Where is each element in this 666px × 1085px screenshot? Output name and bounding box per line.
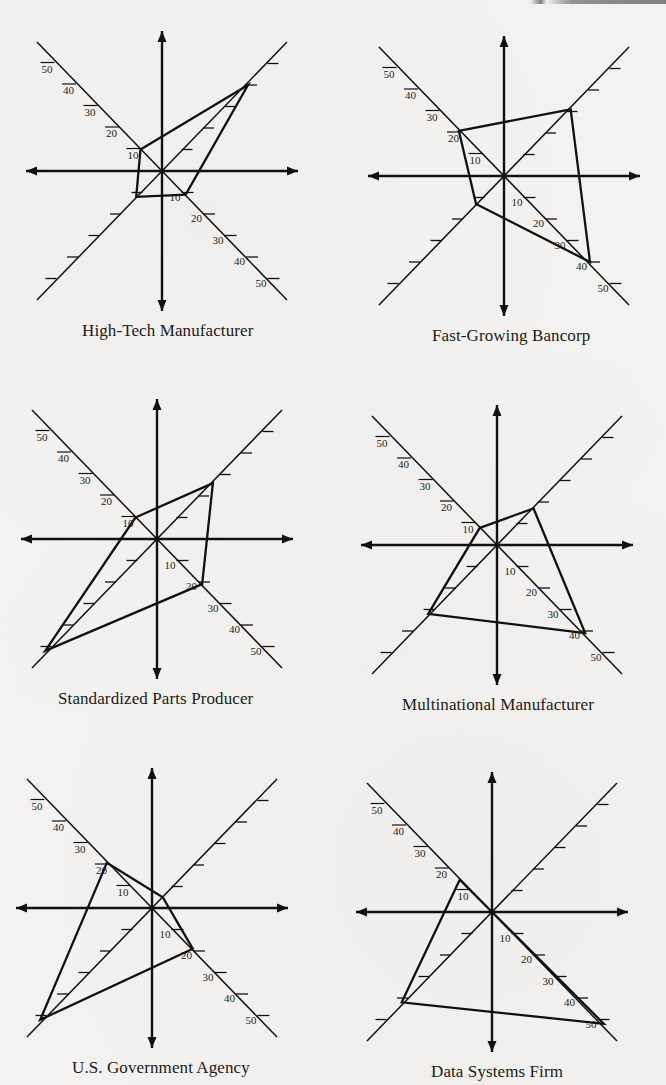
se-axis-label: 40	[564, 996, 576, 1008]
diagram-canvas: 1010202030304040505010102020303040405050…	[0, 0, 666, 1085]
se-axis-label: 20	[521, 953, 533, 965]
se-axis-label: 10	[505, 565, 517, 577]
se-axis-label: 50	[591, 651, 603, 663]
nw-axis-label: 10	[470, 154, 482, 166]
se-axis-label: 10	[165, 559, 177, 571]
profile-diagram-data-systems: 10102020303040405050	[356, 772, 628, 1052]
se-axis-label: 50	[246, 1014, 258, 1026]
caption-standardized: Standardized Parts Producer	[58, 689, 253, 709]
nw-axis-label: 50	[37, 431, 49, 443]
origin-point	[160, 169, 165, 174]
nw-axis-label: 50	[384, 68, 396, 80]
origin-point	[502, 174, 507, 179]
nw-axis-label: 20	[436, 868, 448, 880]
caption-multinational: Multinational Manufacturer	[402, 695, 594, 715]
profile-diagram-us-gov: 10102020303040405050	[16, 768, 288, 1048]
origin-point	[495, 543, 500, 548]
nw-axis-label: 10	[118, 886, 130, 898]
profile-diagram-bancorp: 10102020303040405050	[368, 36, 640, 316]
se-axis-label: 10	[500, 932, 512, 944]
nw-axis-label: 40	[398, 458, 410, 470]
se-axis-label: 40	[576, 260, 588, 272]
nw-axis-label: 50	[42, 63, 54, 75]
caption-high-tech: High-Tech Manufacturer	[82, 321, 253, 341]
nw-axis-label: 30	[75, 843, 87, 855]
nw-axis-label: 40	[393, 825, 405, 837]
profile-polygon	[459, 109, 590, 262]
se-axis-label: 10	[160, 928, 172, 940]
nw-axis-label: 10	[128, 149, 140, 161]
se-axis-label: 50	[598, 282, 610, 294]
se-axis-label: 40	[229, 623, 241, 635]
profile-diagram-standardized: 10102020303040405050	[21, 399, 293, 679]
nw-axis-label: 20	[441, 501, 453, 513]
caption-us-gov: U.S. Government Agency	[72, 1058, 250, 1078]
se-axis-label: 20	[191, 212, 203, 224]
se-axis-label: 20	[533, 217, 545, 229]
nw-axis-label: 30	[420, 480, 432, 492]
nw-axis-label: 40	[53, 821, 65, 833]
caption-bancorp: Fast-Growing Bancorp	[432, 326, 590, 346]
se-axis-label: 30	[213, 234, 225, 246]
nw-axis-label: 10	[458, 890, 470, 902]
profile-diagram-high-tech: 10102020303040405050	[26, 31, 298, 311]
se-axis-label: 10	[512, 196, 524, 208]
nw-axis-label: 50	[32, 800, 44, 812]
nw-axis-label: 30	[415, 847, 427, 859]
profile-diagram-multinational: 10102020303040405050	[361, 405, 633, 685]
se-axis-label: 50	[251, 645, 263, 657]
se-axis-label: 30	[203, 971, 215, 983]
se-axis-label: 40	[224, 992, 236, 1004]
se-axis-label: 50	[256, 277, 268, 289]
se-axis-label: 30	[543, 975, 555, 987]
origin-point	[490, 910, 495, 915]
nw-axis-label: 40	[63, 84, 75, 96]
se-axis-label: 10	[170, 191, 182, 203]
se-axis-label: 40	[234, 255, 246, 267]
nw-axis-label: 30	[85, 106, 97, 118]
nw-axis-label: 20	[106, 127, 118, 139]
nw-axis-label: 20	[448, 132, 460, 144]
caption-data-systems: Data Systems Firm	[431, 1062, 563, 1082]
nw-axis-label: 50	[372, 804, 384, 816]
nw-axis-label: 10	[463, 523, 475, 535]
origin-point	[150, 906, 155, 911]
se-axis-label: 30	[548, 608, 560, 620]
nw-axis-label: 40	[58, 452, 70, 464]
origin-point	[155, 537, 160, 542]
nw-axis-label: 30	[80, 474, 92, 486]
se-axis-label: 20	[526, 586, 538, 598]
nw-axis-label: 50	[377, 437, 389, 449]
nw-axis-label: 30	[427, 111, 439, 123]
nw-axis-label: 40	[405, 89, 417, 101]
nw-axis-label: 20	[101, 495, 113, 507]
se-axis-label: 30	[208, 602, 220, 614]
